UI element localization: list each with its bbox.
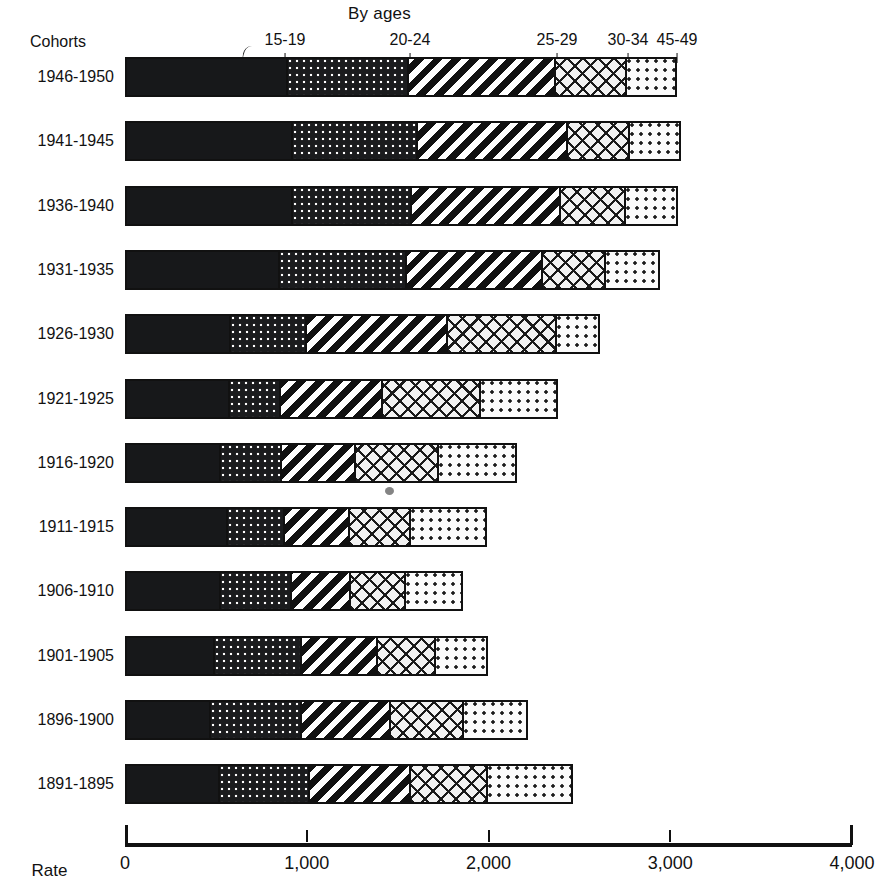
bar-segment-45-49 [625,59,675,95]
bar-segment-30-34 [559,188,625,224]
x-axis-end-cap [125,825,128,845]
x-axis-title: Rate [0,861,879,881]
bar-segment-20-24 [229,316,304,352]
bar-segment-45-49 [604,252,658,288]
bar-segment-45-49 [486,766,571,802]
bar-segment-15-19 [127,638,213,674]
bar-segment-45-49 [555,316,598,352]
bar-segment-30-34 [354,445,437,481]
bar-segment-45-49 [409,509,485,545]
x-axis-tick [306,830,308,842]
bar-segment-20-24 [213,638,300,674]
bar-segment-25-29 [305,316,447,352]
bar-segment-45-49 [434,638,486,674]
x-axis-tick [669,830,671,842]
bar-segment-20-24 [219,573,290,609]
bar-segment-15-19 [127,252,278,288]
bar-segment-15-19 [127,59,286,95]
cohort-row-label: 1891-1895 [14,775,114,793]
bar-segment-25-29 [416,123,566,159]
bar-segment-25-29 [279,381,381,417]
x-axis-tick [488,830,490,842]
cohort-row-label: 1936-1940 [14,197,114,215]
bar-segment-30-34 [566,123,629,159]
bar-segment-25-29 [407,59,554,95]
cohort-row-label: 1901-1905 [14,647,114,665]
stacked-bar [125,314,600,354]
cohort-row-label: 1941-1945 [14,132,114,150]
stacked-bar [125,186,678,226]
stacked-bar [125,571,463,611]
bar-segment-20-24 [209,702,300,738]
stacked-bar [125,443,517,483]
bar-segment-25-29 [290,573,349,609]
bar-segment-30-34 [409,766,485,802]
bar-segment-20-24 [286,59,407,95]
scan-smudge [385,487,394,495]
chart-figure: By ages Cohorts 15-1920-2425-2930-3445-4… [0,0,879,892]
bar-segment-30-34 [554,59,625,95]
stacked-bar [125,250,660,290]
bar-segment-20-24 [278,252,405,288]
x-axis-line [125,843,852,847]
bar-segment-25-29 [405,252,541,288]
bar-segment-45-49 [624,188,676,224]
bar-segment-30-34 [541,252,605,288]
bar-segment-20-24 [226,509,283,545]
bar-segment-30-34 [376,638,433,674]
cohort-row-label: 1906-1910 [14,582,114,600]
x-axis-title-text: Rate [32,861,68,880]
cohort-row-label: 1946-1950 [14,68,114,86]
cohort-row-label: 1911-1915 [14,518,114,536]
bar-segment-45-49 [479,381,556,417]
stacked-bar [125,121,681,161]
bar-segment-25-29 [308,766,409,802]
bar-segment-20-24 [218,766,308,802]
bar-segment-25-29 [300,638,376,674]
bar-segment-15-19 [127,316,229,352]
bar-segment-30-34 [381,381,479,417]
bar-segment-45-49 [628,123,679,159]
bar-segment-15-19 [127,445,219,481]
stacked-bar [125,700,528,740]
bar-segment-15-19 [127,766,218,802]
bar-segment-15-19 [127,702,209,738]
bar-segment-15-19 [127,381,228,417]
bar-segment-15-19 [127,188,291,224]
bar-segment-15-19 [127,123,291,159]
bar-segment-30-34 [446,316,555,352]
stacked-bar [125,764,573,804]
bar-segment-15-19 [127,573,219,609]
stacked-bar [125,507,487,547]
x-axis-end-cap [850,825,853,845]
cohort-row-label: 1896-1900 [14,711,114,729]
bar-segment-30-34 [389,702,461,738]
bar-segment-25-29 [410,188,559,224]
bar-segment-20-24 [291,123,416,159]
bar-segment-15-19 [127,509,226,545]
stacked-bar [125,57,677,97]
stacked-bar [125,636,488,676]
bar-segment-25-29 [283,509,347,545]
bar-segment-20-24 [291,188,410,224]
cohort-row-label: 1926-1930 [14,325,114,343]
plot-area: 1946-19501941-19451936-19401931-19351926… [0,0,879,892]
bar-segment-20-24 [228,381,279,417]
cohort-row-label: 1931-1935 [14,261,114,279]
bar-segment-25-29 [280,445,353,481]
bar-segment-30-34 [348,509,409,545]
cohort-row-label: 1921-1925 [14,390,114,408]
bar-segment-45-49 [437,445,515,481]
stacked-bar [125,379,558,419]
bar-segment-30-34 [349,573,403,609]
bar-segment-20-24 [219,445,280,481]
bar-segment-45-49 [462,702,526,738]
cohort-row-label: 1916-1920 [14,454,114,472]
bar-segment-25-29 [300,702,389,738]
bar-segment-45-49 [404,573,461,609]
